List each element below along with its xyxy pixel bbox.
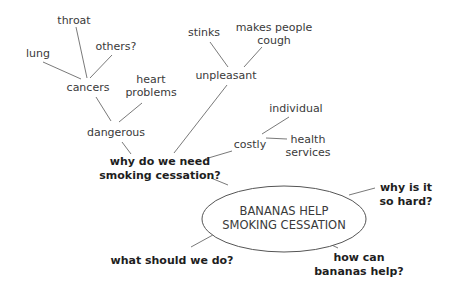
- node-individual: individual: [269, 102, 322, 115]
- branch-what-do-label: what should we do?: [110, 254, 233, 267]
- node-heart-line1: heart: [136, 73, 166, 86]
- connector-individual-costly: [262, 117, 289, 134]
- connector-lung-cancers: [43, 62, 81, 79]
- node-heart-line2: problems: [125, 86, 177, 99]
- branch-how-help-line1: how can: [333, 251, 384, 264]
- node-stinks: stinks: [188, 26, 220, 39]
- branch-why-need-line1: why do we need: [110, 155, 210, 168]
- connector-others-cancers: [90, 55, 112, 78]
- central-label-line1: BANANAS HELP: [240, 204, 329, 218]
- connector-heart-dangerous: [119, 103, 142, 122]
- branch-how-help: how can bananas help?: [314, 251, 404, 278]
- connector-stinks-unpleasant: [210, 42, 228, 67]
- branch-why-need: why do we need smoking cessation?: [99, 155, 220, 182]
- branch-why-hard: why is it so hard?: [380, 181, 433, 208]
- mind-map-canvas: BANANAS HELP SMOKING CESSATION why do we…: [0, 0, 449, 291]
- node-health-line2: services: [285, 146, 330, 159]
- connector-health-costly: [266, 138, 287, 139]
- sub-nodes: dangerous cancers lung throat others? he…: [26, 14, 331, 159]
- branch-why-hard-line2: so hard?: [380, 195, 433, 208]
- connector-why-hard-central: [349, 188, 375, 195]
- node-dangerous: dangerous: [87, 126, 145, 139]
- connector-unpleasant-why-need: [174, 85, 227, 153]
- node-others: others?: [96, 40, 137, 53]
- node-costly: costly: [234, 138, 267, 151]
- node-lung: lung: [26, 47, 50, 60]
- connector-dangerous-why-need: [122, 142, 131, 154]
- branch-why-need-line2: smoking cessation?: [99, 169, 220, 182]
- node-cancers: cancers: [67, 81, 110, 94]
- branch-what-do: what should we do?: [110, 254, 233, 267]
- central-node: BANANAS HELP SMOKING CESSATION: [202, 186, 366, 252]
- connector-throat-cancers: [76, 27, 87, 78]
- branch-why-hard-line1: why is it: [380, 181, 432, 194]
- node-throat: throat: [57, 14, 91, 27]
- node-cough-line2: cough: [257, 34, 291, 47]
- node-cough-line1: makes people: [236, 21, 313, 34]
- connector-cancers-dangerous: [96, 97, 111, 121]
- node-unpleasant: unpleasant: [195, 69, 257, 82]
- branch-how-help-line2: bananas help?: [314, 265, 404, 278]
- central-label-line2: SMOKING CESSATION: [222, 218, 346, 232]
- node-health-line1: health: [291, 133, 326, 146]
- connector-cough-unpleasant: [244, 47, 262, 67]
